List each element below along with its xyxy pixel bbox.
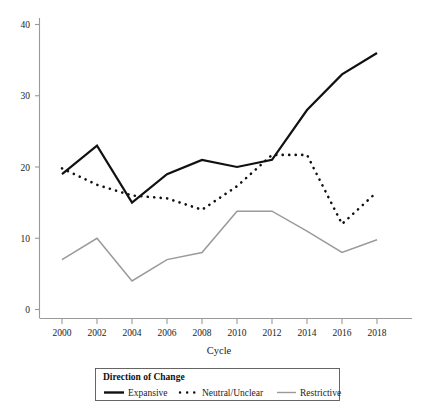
y-tick-label-0: 0 [25, 305, 30, 315]
x-tick-label-2018: 2018 [368, 328, 387, 338]
chart-figure: 40 30 20 10 0 2000 2002 2004 2006 2008 [0, 0, 425, 412]
legend-label-restrictive: Restrictive [300, 388, 341, 398]
x-tick-label-2016: 2016 [333, 328, 352, 338]
y-tick-label-10: 10 [21, 234, 31, 244]
x-tick-label-2006: 2006 [158, 328, 177, 338]
y-tick-label-30: 30 [21, 91, 31, 101]
x-tick-label-2010: 2010 [228, 328, 247, 338]
x-axis-title: Cycle [207, 345, 232, 356]
legend-title: Direction of Change [103, 372, 185, 382]
x-tick-label-2002: 2002 [88, 328, 107, 338]
legend: Direction of Change Expansive Neutral/Un… [96, 369, 342, 401]
legend-label-expansive: Expansive [128, 388, 168, 398]
y-tick-label-40: 40 [21, 20, 31, 30]
x-tick-label-2014: 2014 [298, 328, 317, 338]
x-tick-label-2004: 2004 [123, 328, 142, 338]
legend-label-neutral-unclear: Neutral/Unclear [202, 388, 264, 398]
x-tick-label-2000: 2000 [53, 328, 72, 338]
x-tick-label-2012: 2012 [263, 328, 282, 338]
x-tick-label-2008: 2008 [193, 328, 212, 338]
y-tick-label-20: 20 [21, 163, 31, 173]
line-chart: 40 30 20 10 0 2000 2002 2004 2006 2008 [0, 0, 425, 412]
